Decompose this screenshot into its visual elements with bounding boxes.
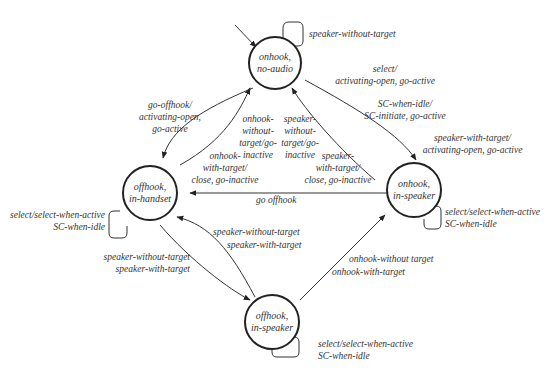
label-line: select/select-when-active bbox=[445, 206, 540, 218]
initial-arrow bbox=[235, 25, 256, 47]
label-line: close, go-inactive bbox=[185, 174, 265, 186]
label-line: SC-when-idle/ bbox=[350, 98, 460, 110]
label-line: speaker-without-target bbox=[60, 251, 190, 263]
label-line: activating-open, bbox=[130, 111, 210, 123]
label-select-activating: select/ activating-open, go-active bbox=[330, 63, 440, 87]
state-line1: onhook, bbox=[245, 51, 305, 63]
label-handset-to-offspeaker: speaker-without-target speaker-with-targ… bbox=[60, 251, 190, 275]
label-line: SC-when-idle bbox=[0, 221, 105, 233]
label-line: speaker- bbox=[298, 150, 378, 162]
label-go-offhook-activating: go-offhook/ activating-open, go-active bbox=[130, 99, 210, 135]
label-line: select/select-when-active bbox=[318, 338, 413, 350]
state-label-onhook-in-speaker: onhook, in-speaker bbox=[384, 178, 444, 202]
state-line1: offhook, bbox=[120, 181, 180, 193]
label-no-audio-self: speaker-without-target bbox=[309, 28, 396, 40]
label-line: speaker-with-target bbox=[213, 239, 301, 252]
label-line: activating-open, go-active bbox=[415, 144, 530, 156]
label-line: go-offhook/ bbox=[130, 99, 210, 111]
state-line2: in-handset bbox=[120, 193, 180, 205]
self-loop-handset bbox=[109, 211, 127, 238]
state-line1: onhook, bbox=[384, 178, 444, 190]
label-line: close, go-inactive bbox=[298, 174, 378, 186]
label-line: speaker-with-target bbox=[60, 263, 190, 275]
state-label-onhook-no-audio: onhook, no-audio bbox=[245, 51, 305, 75]
label-line: activating-open, go-active bbox=[330, 75, 440, 87]
state-line2: in-speaker bbox=[384, 190, 444, 202]
state-line1: offhook, bbox=[242, 310, 302, 322]
label-line: SC-initiate, go-active bbox=[350, 110, 460, 122]
label-go-offhook: go offhook bbox=[256, 194, 296, 206]
label-line: go-active bbox=[130, 123, 210, 135]
label-line: onhook-with-target bbox=[332, 266, 433, 279]
label-line: SC-when-idle bbox=[445, 218, 540, 230]
state-label-offhook-in-handset: offhook, in-handset bbox=[120, 181, 180, 205]
label-handset-self: select/select-when-active SC-when-idle bbox=[0, 209, 105, 233]
label-line: speaker-with-target/ bbox=[415, 132, 530, 144]
label-line: SC-when-idle bbox=[318, 350, 413, 362]
label-offspeaker-to-handset: speaker-without-target speaker-with-targ… bbox=[213, 226, 301, 252]
label-line: with-target/ bbox=[298, 162, 378, 174]
label-offspeaker-self: select/select-when-active SC-when-idle bbox=[318, 338, 413, 362]
label-onhook-speaker-self: select/select-when-active SC-when-idle bbox=[445, 206, 540, 230]
label-line: with-target/ bbox=[185, 162, 265, 174]
state-line2: in-speaker bbox=[242, 322, 302, 334]
label-line: target/go- bbox=[275, 137, 325, 149]
label-line: select/ bbox=[330, 63, 440, 75]
label-line: without- bbox=[275, 125, 325, 137]
label-speaker-with-target-close: speaker- with-target/ close, go-inactive bbox=[298, 150, 378, 186]
label-line: select/select-when-active bbox=[0, 209, 105, 221]
label-line: speaker- bbox=[275, 113, 325, 125]
label-line: onhook-without target bbox=[332, 253, 433, 266]
label-offspeaker-to-onspeaker: onhook-without target onhook-with-target bbox=[332, 253, 433, 279]
state-line2: no-audio bbox=[245, 63, 305, 75]
label-speaker-with-target-activating: speaker-with-target/ activating-open, go… bbox=[415, 132, 530, 156]
label-sc-when-idle: SC-when-idle/ SC-initiate, go-active bbox=[350, 98, 460, 122]
label-line: speaker-without-target bbox=[213, 226, 301, 239]
state-label-offhook-in-speaker: offhook, in-speaker bbox=[242, 310, 302, 334]
label-onhook-with-target-close: onhook- with-target/ close, go-inactive bbox=[185, 150, 265, 186]
label-line: onhook- bbox=[185, 150, 265, 162]
